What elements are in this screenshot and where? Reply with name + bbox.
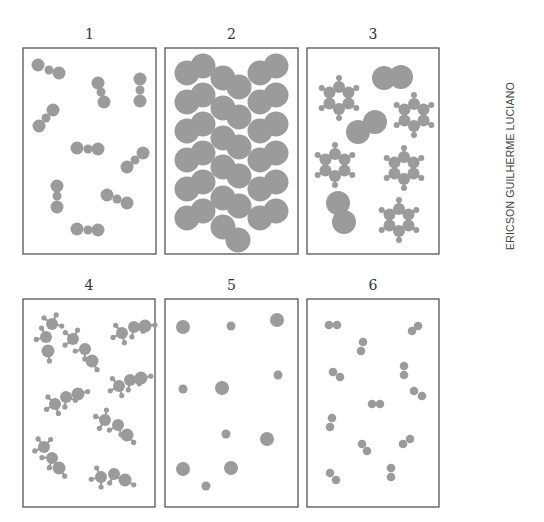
atom bbox=[376, 400, 385, 409]
hydrogen-atom bbox=[39, 325, 44, 330]
hydrogen-atom bbox=[122, 340, 127, 345]
hydrogen-atom bbox=[411, 92, 417, 98]
atom bbox=[363, 447, 372, 456]
carbon-atom bbox=[116, 327, 128, 339]
atom bbox=[363, 110, 387, 134]
hydrogen-atom bbox=[384, 175, 390, 181]
hydrogen-atom bbox=[45, 394, 50, 399]
hydrogen-atom bbox=[104, 408, 109, 413]
atom bbox=[227, 164, 252, 189]
hydrogen-atom bbox=[113, 323, 118, 328]
hydrogen-atom bbox=[54, 312, 59, 317]
atom bbox=[227, 322, 236, 331]
particle-diagram: 123456 ERICSON GUILHERME LUCIANO bbox=[0, 0, 544, 522]
hydrogen-atom bbox=[396, 197, 402, 203]
hydrogen-atom bbox=[47, 358, 52, 363]
atom bbox=[227, 75, 252, 100]
carbon-atom bbox=[46, 318, 58, 330]
atom bbox=[368, 400, 377, 409]
atom bbox=[202, 482, 211, 491]
oxygen-atom bbox=[135, 372, 148, 385]
hydrogen-atom bbox=[110, 376, 115, 381]
hydrogen-atom bbox=[94, 465, 99, 470]
panel-label: 3 bbox=[369, 26, 378, 42]
atom bbox=[176, 320, 190, 334]
hydrogen-atom bbox=[126, 387, 131, 392]
panel-2: 2 bbox=[165, 26, 298, 254]
atom bbox=[414, 322, 423, 331]
hydrogen-atom bbox=[56, 411, 61, 416]
hydrogen-atom bbox=[39, 455, 44, 460]
hydrogen-atom bbox=[315, 172, 321, 178]
atom bbox=[121, 197, 134, 210]
hydrogen-atom bbox=[41, 315, 46, 320]
hydrogen-atom bbox=[97, 426, 102, 431]
hydrogen-atom bbox=[131, 440, 136, 445]
hydrogen-atom bbox=[336, 115, 342, 121]
oxygen-atom bbox=[86, 355, 99, 368]
atom bbox=[326, 423, 335, 432]
oxygen-atom bbox=[139, 320, 152, 333]
hydrogen-atom bbox=[413, 227, 419, 233]
carbon-atom bbox=[99, 414, 111, 426]
hydrogen-atom bbox=[384, 155, 390, 161]
panel-1: 1 bbox=[23, 26, 156, 254]
hydrogen-atom bbox=[379, 227, 385, 233]
hydrogen-atom bbox=[94, 367, 99, 372]
oxygen-atom bbox=[72, 388, 85, 401]
carbon-atom bbox=[79, 343, 91, 355]
atom bbox=[101, 189, 114, 202]
oxygen-atom bbox=[53, 462, 66, 475]
hydrogen-atom bbox=[75, 328, 80, 333]
hydrogen-atom bbox=[59, 324, 64, 329]
panel-3: 3 bbox=[307, 26, 439, 254]
atom bbox=[92, 224, 105, 237]
hydrogen-atom bbox=[315, 152, 321, 158]
atom bbox=[399, 440, 408, 449]
atom bbox=[406, 435, 415, 444]
atom bbox=[336, 373, 345, 382]
carbon-atom bbox=[128, 321, 140, 333]
hydrogen-atom bbox=[394, 102, 400, 108]
hydrogen-atom bbox=[73, 348, 78, 353]
carbon-atom bbox=[67, 333, 79, 345]
atom bbox=[248, 90, 273, 115]
hydrogen-atom bbox=[349, 152, 355, 158]
atom bbox=[175, 177, 200, 202]
atom bbox=[97, 88, 106, 97]
atom bbox=[224, 461, 238, 475]
atom bbox=[175, 119, 200, 144]
atom bbox=[359, 338, 368, 347]
atom bbox=[53, 67, 66, 80]
atom bbox=[227, 194, 252, 219]
carbon-atom bbox=[40, 331, 52, 343]
hydrogen-atom bbox=[62, 404, 67, 409]
atom bbox=[270, 313, 284, 327]
atom bbox=[387, 464, 396, 473]
atom bbox=[325, 321, 334, 330]
atom bbox=[400, 371, 409, 380]
hydrogen-atom bbox=[353, 85, 359, 91]
hydrogen-atom bbox=[34, 337, 39, 342]
hydrogen-atom bbox=[32, 448, 37, 453]
atom bbox=[71, 223, 84, 236]
hydrogen-atom bbox=[110, 335, 115, 340]
panel-label: 2 bbox=[227, 26, 236, 42]
carbon-atom bbox=[113, 380, 125, 392]
atom bbox=[274, 371, 283, 380]
panels-group: 123456 bbox=[23, 26, 439, 507]
atom bbox=[92, 143, 105, 156]
hydrogen-atom bbox=[131, 482, 136, 487]
atom bbox=[410, 387, 419, 396]
atom bbox=[328, 414, 337, 423]
hydrogen-atom bbox=[129, 334, 134, 339]
carbon-atom bbox=[95, 471, 107, 483]
hydrogen-atom bbox=[332, 142, 338, 148]
hydrogen-atom bbox=[62, 342, 67, 347]
hydrogen-atom bbox=[85, 389, 90, 394]
atom bbox=[45, 66, 54, 75]
hydrogen-atom bbox=[62, 474, 67, 479]
hydrogen-atom bbox=[44, 407, 49, 412]
atom bbox=[358, 440, 367, 449]
hydrogen-atom bbox=[379, 207, 385, 213]
